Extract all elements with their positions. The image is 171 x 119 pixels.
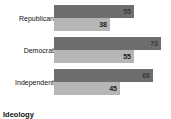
category-label-republican: Republican [0, 14, 54, 23]
bar-pair-independent: 68 45 [54, 69, 171, 95]
table-row: 45 [54, 82, 171, 95]
category-label-independent: Independent [0, 78, 54, 87]
axis-title-ideology: Ideology [3, 110, 34, 119]
table-row: 38 [54, 18, 171, 31]
bar-pair-republican: 55 38 [54, 5, 171, 31]
table-row: 73 [54, 37, 171, 50]
table-row: 68 [54, 69, 171, 82]
category-label-democrat: Democrat [0, 46, 54, 55]
bar-value-independent-dark: 68 [54, 69, 153, 82]
bar-value-democrat-light: 55 [54, 50, 134, 63]
bar-pair-democrat: 73 55 [54, 37, 171, 63]
bar-value-democrat-dark: 73 [54, 37, 161, 50]
table-row: 55 [54, 50, 171, 63]
table-row: 55 [54, 5, 171, 18]
bar-value-independent-light: 45 [54, 82, 120, 95]
bar-value-republican-dark: 55 [54, 5, 134, 18]
bar-value-republican-light: 38 [54, 18, 110, 31]
bar-chart: Republican 55 38 Democrat 73 55 In [0, 0, 171, 119]
